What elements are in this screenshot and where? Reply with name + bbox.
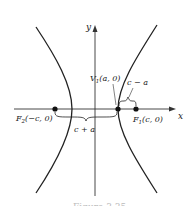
c-plus-a-label: c + a bbox=[74, 125, 95, 134]
c-minus-a-brace bbox=[119, 97, 136, 106]
focus-f1-dot bbox=[133, 106, 138, 111]
hyperbola-figure: x y V1(a, 0) c − a F2(−c, 0) c + a F1(c,… bbox=[0, 0, 186, 206]
v1-leader-line bbox=[113, 84, 116, 105]
c-minus-a-label: c − a bbox=[127, 78, 148, 87]
focus-f2-label: F2(−c, 0) bbox=[15, 114, 53, 124]
c-minus-a-leader bbox=[129, 88, 133, 97]
vertex-v1-dot bbox=[115, 106, 120, 111]
figure-caption: Figure 3.35 bbox=[73, 202, 126, 206]
focus-f2-dot bbox=[52, 106, 57, 111]
c-plus-a-brace bbox=[55, 112, 117, 121]
vertex-v1-label: V1(a, 0) bbox=[90, 74, 120, 84]
y-axis bbox=[93, 25, 98, 196]
focus-f1-label: F1(c, 0) bbox=[132, 115, 163, 125]
x-axis-label: x bbox=[178, 111, 183, 121]
y-axis-label: y bbox=[85, 22, 92, 32]
